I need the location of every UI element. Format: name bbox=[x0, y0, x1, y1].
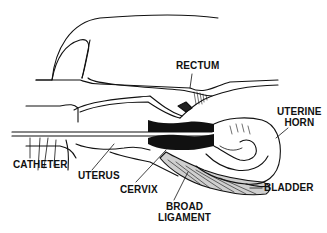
rectum-wall-upper bbox=[36, 80, 278, 91]
label-bladder: BLADDER bbox=[264, 182, 314, 193]
rectum-leader bbox=[190, 74, 192, 88]
uterine-horn-leader bbox=[276, 128, 288, 138]
tract-upper bbox=[26, 105, 78, 122]
label-broad-ligament-line2: LIGAMENT bbox=[158, 212, 211, 223]
label-uterine-horn: UTERINE HORN bbox=[277, 106, 322, 128]
label-cervix: CERVIX bbox=[120, 184, 158, 195]
label-rectum: RECTUM bbox=[176, 60, 219, 71]
uterus-leader bbox=[92, 144, 114, 170]
label-catheter: CATHETER bbox=[13, 159, 68, 170]
label-uterus: UTERUS bbox=[78, 170, 120, 181]
label-broad-ligament: BROAD LIGAMENT bbox=[158, 201, 211, 223]
label-broad-ligament-line1: BROAD bbox=[158, 201, 211, 212]
label-uterine-horn-line2: HORN bbox=[277, 117, 322, 128]
cervix-leader bbox=[136, 150, 166, 182]
cervix-band bbox=[148, 120, 214, 132]
cervix-knot bbox=[178, 102, 192, 112]
label-uterine-horn-line1: UTERINE bbox=[277, 106, 322, 117]
